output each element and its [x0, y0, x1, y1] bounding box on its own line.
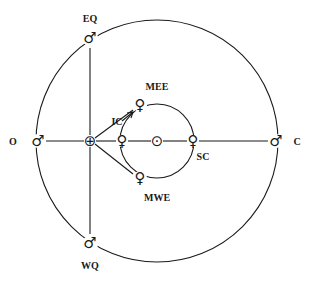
mars-symbol-opposition: ♂ — [31, 132, 44, 150]
label-opposition: O — [9, 136, 17, 147]
venus-symbol-ic: ♀ — [117, 132, 128, 150]
planetary-configurations-diagram: ♂ ♂ ♂ ♂ ⊕ ⊙ ♀ ♀ ♀ ♀ O C EQ WQ IC SC MEE … — [0, 0, 310, 282]
mars-symbol-wq: ♂ — [83, 234, 96, 252]
venus-symbol-mee: ♀ — [135, 96, 146, 114]
mars-symbol-conjunction: ♂ — [269, 132, 282, 150]
label-conjunction: C — [293, 136, 300, 147]
label-mwe: MWE — [144, 192, 170, 203]
sun-symbol: ⊙ — [151, 132, 164, 150]
label-ic: IC — [111, 116, 122, 127]
label-sc: SC — [197, 151, 210, 162]
label-eq: EQ — [83, 13, 98, 24]
venus-symbol-mwe: ♀ — [135, 169, 146, 187]
venus-symbol-sc: ♀ — [188, 132, 199, 150]
label-mee: MEE — [146, 81, 169, 92]
earth-symbol: ⊕ — [84, 132, 97, 150]
mars-symbol-eq: ♂ — [83, 29, 96, 47]
label-wq: WQ — [81, 260, 99, 271]
